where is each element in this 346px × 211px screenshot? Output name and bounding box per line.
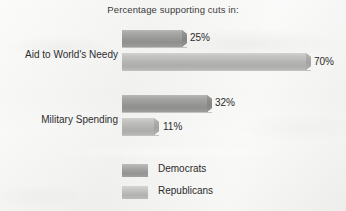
bar-shadow-edge <box>122 47 187 48</box>
category-label-military-spending: Military Spending <box>0 114 118 125</box>
legend-label-democrats: Democrats <box>158 163 206 174</box>
legend-label-republicans: Republicans <box>158 185 213 196</box>
value-label-republicans-aid-to-worlds-needy: 70% <box>314 56 334 67</box>
value-label-republicans-military-spending: 11% <box>163 121 182 132</box>
bar-democrats-military-spending <box>122 95 208 112</box>
bar-shadow-edge <box>122 135 159 136</box>
legend-swatch-democrats <box>122 164 148 177</box>
bar-bevel-cap <box>207 95 212 112</box>
bar-democrats-aid-to-worlds-needy <box>122 30 183 47</box>
bar-face <box>122 118 155 135</box>
bar-bevel-cap <box>154 118 159 135</box>
value-label-democrats-military-spending: 32% <box>215 97 235 108</box>
bar-face <box>122 95 208 112</box>
chart-title: Percentage supporting cuts in: <box>0 4 346 15</box>
category-label-aid-to-worlds-needy: Aid to World's Needy <box>0 49 118 60</box>
bar-bevel-cap <box>182 30 187 47</box>
bar-shadow-edge <box>122 70 311 71</box>
bar-face <box>122 53 307 70</box>
bar-chart: Percentage supporting cuts in: Aid to Wo… <box>0 0 346 211</box>
bar-face <box>122 30 183 47</box>
bar-republicans-aid-to-worlds-needy <box>122 53 307 70</box>
bar-republicans-military-spending <box>122 118 155 135</box>
bar-shadow-edge <box>122 112 212 113</box>
value-label-democrats-aid-to-worlds-needy: 25% <box>190 32 210 43</box>
legend-swatch-republicans <box>122 186 148 199</box>
bar-bevel-cap <box>306 53 311 70</box>
